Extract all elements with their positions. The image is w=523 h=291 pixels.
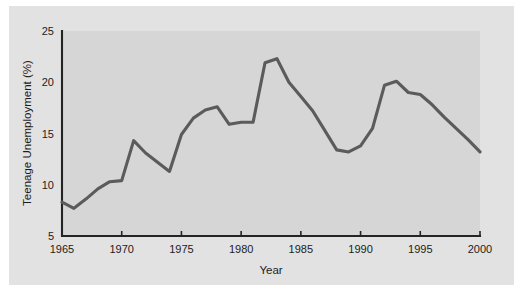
y-tick-label-10: 10 — [42, 179, 54, 191]
x-tick-label-1990: 1990 — [348, 243, 372, 255]
chart-canvas: 510152025 196519701975198019851990199520… — [9, 6, 514, 285]
x-axis-tick-labels: 19651970197519801985199019952000 — [50, 243, 492, 255]
y-tick-label-5: 5 — [48, 230, 54, 242]
y-tick-label-20: 20 — [42, 76, 54, 88]
x-tick-label-1965: 1965 — [50, 243, 74, 255]
y-tick-label-25: 25 — [42, 25, 54, 37]
x-tick-label-1980: 1980 — [229, 243, 253, 255]
x-tick-label-1970: 1970 — [109, 243, 133, 255]
x-axis-title: Year — [259, 264, 282, 276]
y-axis-tick-labels: 510152025 — [42, 25, 54, 242]
line-chart: 510152025 196519701975198019851990199520… — [9, 6, 514, 285]
y-axis-title: Teenage Unemployment (%) — [21, 60, 33, 206]
x-tick-label-1975: 1975 — [169, 243, 193, 255]
y-tick-label-15: 15 — [42, 128, 54, 140]
x-tick-label-1985: 1985 — [289, 243, 313, 255]
x-tick-label-1995: 1995 — [408, 243, 432, 255]
x-tick-label-2000: 2000 — [468, 243, 492, 255]
figure-card: 510152025 196519701975198019851990199520… — [9, 6, 514, 285]
